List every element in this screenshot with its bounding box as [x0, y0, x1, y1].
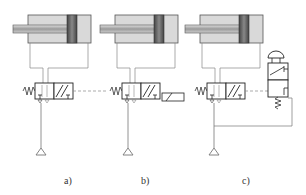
panel-c: c)	[185, 15, 292, 187]
spring-icon	[275, 97, 281, 109]
valve-5-2-c	[195, 83, 245, 103]
panel-a: a)	[13, 15, 108, 187]
pushbutton-icon	[268, 51, 284, 58]
cylinder-b	[100, 15, 178, 43]
air-supply-icon-a	[36, 148, 46, 155]
label-a: a)	[64, 175, 72, 187]
solenoid-icon	[162, 93, 184, 101]
valve-5-2-b	[110, 83, 160, 103]
pushbutton-valve-3-2	[268, 51, 288, 109]
pneumatic-diagram: a) b)	[0, 0, 306, 195]
panel-b: b)	[100, 15, 184, 187]
valve-5-2-a	[23, 83, 73, 103]
label-c: c)	[242, 175, 250, 187]
air-supply-icon-b	[123, 148, 133, 155]
cylinder-a	[13, 15, 91, 43]
label-b: b)	[141, 175, 149, 187]
cylinder-c	[185, 15, 263, 43]
air-supply-icon-c	[209, 148, 219, 155]
